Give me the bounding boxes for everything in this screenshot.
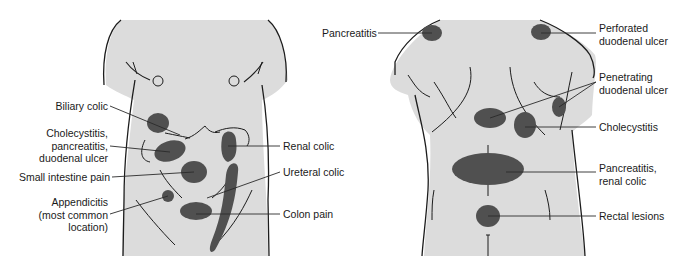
spot-perforated-ulcer [531, 24, 551, 40]
spot-pancreatitis-renal [452, 153, 524, 185]
label-pancreatitis-renal-colic: Pancreatitis, renal colic [599, 162, 657, 187]
spot-cholecystitis-back [514, 112, 536, 138]
label-cholecystitis: Cholecystitis [599, 121, 658, 134]
label-ureteral-colic: Ureteral colic [283, 166, 344, 179]
spot-colon [180, 202, 212, 220]
front-torso [104, 20, 288, 256]
label-appendicitis: Appendicitis (most common location) [39, 196, 108, 234]
label-colon-pain: Colon pain [283, 208, 333, 221]
label-biliary-colic: Biliary colic [55, 100, 108, 113]
label-pancreatitis: Pancreatitis [322, 27, 377, 40]
label-cholecystitis-pancreatitis-duodenal-ulcer: Cholecystitis, pancreatitis, duodenal ul… [39, 127, 108, 165]
label-rectal-lesions: Rectal lesions [599, 210, 664, 223]
label-small-intestine-pain: Small intestine pain [19, 171, 110, 184]
label-renal-colic: Renal colic [283, 140, 334, 153]
label-perforated-duodenal-ulcer: Perforated duodenal ulcer [599, 22, 668, 47]
label-penetrating-duodenal-ulcer: Penetrating duodenal ulcer [599, 71, 668, 96]
